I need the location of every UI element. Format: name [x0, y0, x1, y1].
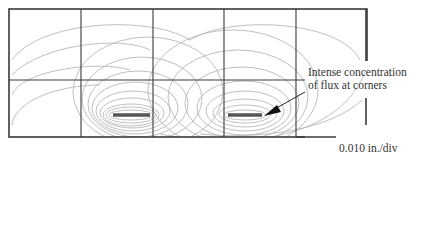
annotation-text: Intense concentration of flux at corners	[308, 66, 407, 92]
annotation-line-2: of flux at corners	[308, 79, 407, 92]
scale-label: 0.010 in./div	[339, 142, 397, 155]
annotation-line-1: Intense concentration	[308, 66, 407, 79]
